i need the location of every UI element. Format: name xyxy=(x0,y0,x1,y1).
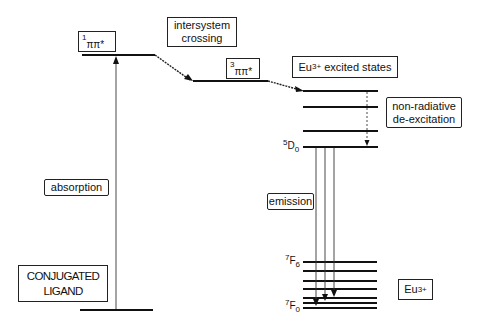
absorption-text: absorption xyxy=(51,181,102,194)
term-7f6-sub: 6 xyxy=(296,260,300,269)
eu-ion-symbol: Eu xyxy=(404,283,417,296)
term-7f0-sub: 0 xyxy=(296,305,300,314)
singlet-pipi: ππ* xyxy=(86,39,104,50)
term-5d0: 5D0 xyxy=(283,140,299,151)
isc-label: intersystem crossing xyxy=(167,17,237,47)
absorption-label: absorption xyxy=(44,179,109,196)
isc-arrowhead-icon xyxy=(184,74,193,81)
term-7f0: 7F0 xyxy=(285,300,300,311)
eu-ion-label: Eu3+ xyxy=(398,279,433,300)
emission-arrowhead-3-icon xyxy=(331,290,337,297)
excited-states-text: excited states xyxy=(321,61,391,74)
isc-label-line2: crossing xyxy=(182,32,223,45)
non-radiative-arrowhead-icon xyxy=(365,140,370,146)
absorption-arrowhead-icon xyxy=(113,56,119,64)
conjugated-ligand-label: CONJUGATED LIGAND xyxy=(18,265,108,302)
ligand-text: LIGAND xyxy=(43,284,82,299)
triplet-state-label: 3ππ* xyxy=(226,58,260,79)
non-radiative-line1: non-radiative xyxy=(392,100,456,113)
non-radiative-line2: de-excitation xyxy=(393,113,455,126)
term-5d0-main: D xyxy=(287,140,294,151)
conjugated-text: CONJUGATED xyxy=(27,269,99,284)
emission-text: emission xyxy=(269,195,312,208)
singlet-state-label: 1ππ* xyxy=(78,31,116,52)
term-7f6: 7F6 xyxy=(285,255,300,266)
eu-symbol: Eu xyxy=(299,61,312,74)
energy-transfer-arrow xyxy=(268,81,300,90)
non-radiative-label: non-radiative de-excitation xyxy=(386,97,462,128)
emission-label: emission xyxy=(267,193,314,210)
term-5d0-sub: 0 xyxy=(295,145,299,154)
eu-excited-states-label: Eu3+ excited states xyxy=(292,56,398,78)
isc-label-line1: intersystem xyxy=(174,19,230,32)
triplet-pipi: ππ* xyxy=(234,66,252,77)
isc-transfer-arrow xyxy=(155,55,190,80)
energy-transfer-arrowhead-icon xyxy=(295,86,304,92)
